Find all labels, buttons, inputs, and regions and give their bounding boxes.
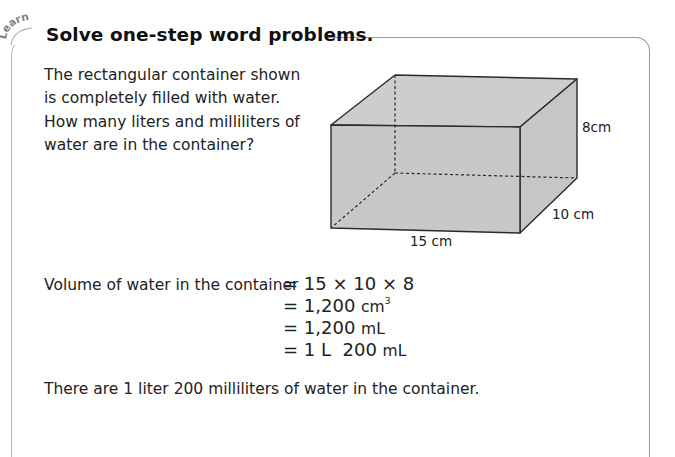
equals-sign: =	[283, 317, 298, 338]
height-label: 8cm	[582, 119, 611, 135]
equals-sign: =	[283, 295, 298, 316]
step-value: 1,200	[304, 317, 356, 338]
step-unit: mL	[361, 320, 385, 338]
width-label: 10 cm	[552, 206, 594, 222]
equals-sign: =	[283, 273, 298, 294]
length-label: 15 cm	[410, 233, 452, 249]
step-value: 1,200	[304, 295, 356, 316]
step-value: 1 L 200	[304, 339, 377, 360]
solution-step: = 1 L 200 mL	[283, 339, 406, 360]
solution-label: Volume of water in the container	[44, 276, 298, 294]
equals-sign: =	[283, 339, 298, 360]
solution-step: = 1,200 cm3	[283, 295, 390, 316]
conclusion-text: There are 1 liter 200 milliliters of wat…	[44, 380, 479, 398]
solution-step: = 15 × 10 × 8	[283, 273, 414, 294]
solution-step: = 1,200 mL	[283, 317, 385, 338]
step-unit: mL	[383, 342, 407, 360]
step-value: 15 × 10 × 8	[304, 273, 414, 294]
step-unit: cm	[361, 298, 385, 316]
step-unit-exponent: 3	[385, 296, 391, 306]
prism-front-face	[331, 125, 520, 233]
